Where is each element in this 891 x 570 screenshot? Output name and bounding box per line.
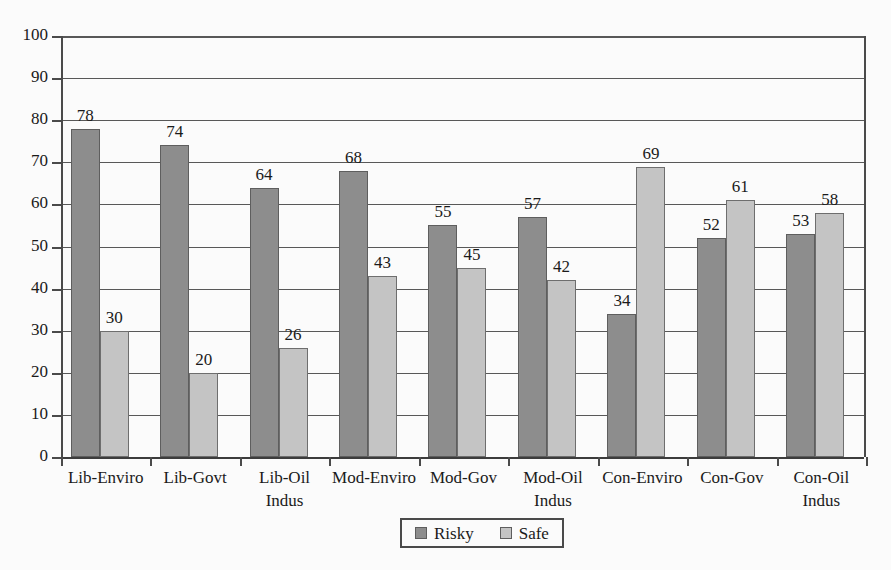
bar-value-label: 64 — [256, 165, 273, 185]
bar-safe: 42 — [547, 280, 576, 457]
y-tick-mark — [52, 373, 61, 375]
chart-legend: RiskySafe — [400, 518, 564, 548]
bar-chart: 0102030405060708090100 78307420642668435… — [0, 0, 891, 570]
bar-value-label: 74 — [166, 122, 183, 142]
y-tick-label: 100 — [23, 24, 49, 46]
bar-value-label: 78 — [77, 106, 94, 126]
y-tick-label: 40 — [31, 277, 48, 299]
bar-group: 7420 — [150, 36, 239, 457]
bar-safe: 20 — [189, 373, 218, 457]
legend-label: Safe — [519, 524, 549, 543]
bar-safe: 58 — [815, 213, 844, 457]
x-axis-label-line: Lib-Oil — [240, 466, 329, 489]
x-axis-label: Con-Enviro — [598, 466, 687, 489]
bar-risky: 55 — [428, 225, 457, 457]
x-axis-tick — [150, 457, 152, 466]
bar-risky: 64 — [250, 188, 279, 457]
bar-value-label: 30 — [106, 308, 123, 328]
y-axis: 0102030405060708090100 — [0, 36, 61, 457]
bar-risky: 78 — [71, 129, 100, 457]
bar-value-label: 57 — [524, 194, 541, 214]
y-tick-label: 90 — [31, 66, 48, 88]
x-axis-tick — [777, 457, 779, 466]
x-axis-label-line: Mod-Enviro — [329, 466, 418, 489]
x-axis-label-line: Con-Enviro — [598, 466, 687, 489]
y-tick-mark — [52, 78, 61, 80]
bar-group: 5358 — [777, 36, 866, 457]
bar-safe: 69 — [636, 167, 665, 457]
y-tick-mark — [52, 415, 61, 417]
x-axis-label: Mod-OilIndus — [508, 466, 597, 512]
bar-value-label: 52 — [703, 215, 720, 235]
x-axis-label-line: Indus — [508, 489, 597, 512]
x-axis-label-line: Indus — [240, 489, 329, 512]
x-axis-tick — [240, 457, 242, 466]
x-axis-tick — [508, 457, 510, 466]
x-axis-tick — [419, 457, 421, 466]
x-axis-tick — [598, 457, 600, 466]
x-axis-label: Mod-Enviro — [329, 466, 418, 489]
bar-value-label: 43 — [374, 253, 391, 273]
y-tick-mark — [52, 247, 61, 249]
y-tick-label: 30 — [31, 319, 48, 341]
bar-safe: 45 — [457, 268, 486, 457]
y-tick-label: 80 — [31, 108, 48, 130]
y-tick-label: 20 — [31, 361, 48, 383]
legend-item-risky: Risky — [415, 524, 474, 543]
bar-value-label: 42 — [553, 257, 570, 277]
x-axis-label: Lib-Enviro — [61, 466, 150, 489]
x-axis-tick — [329, 457, 331, 466]
bar-value-label: 20 — [195, 350, 212, 370]
bar-value-label: 55 — [434, 202, 451, 222]
bar-value-label: 53 — [792, 211, 809, 231]
y-tick-label: 0 — [40, 445, 49, 467]
y-tick-mark — [52, 36, 61, 38]
bar-safe: 43 — [368, 276, 397, 457]
bar-group: 7830 — [61, 36, 150, 457]
x-axis-label-line: Mod-Gov — [419, 466, 508, 489]
bar-group: 5261 — [687, 36, 776, 457]
bar-group: 6843 — [329, 36, 418, 457]
bar-value-label: 45 — [463, 245, 480, 265]
x-axis-label-line: Lib-Enviro — [61, 466, 150, 489]
bar-value-label: 69 — [642, 144, 659, 164]
x-axis-label: Lib-OilIndus — [240, 466, 329, 512]
bar-risky: 74 — [160, 145, 189, 457]
risky-swatch-icon — [415, 527, 427, 539]
x-axis-label: Con-Gov — [687, 466, 776, 489]
x-axis-tick — [61, 457, 63, 466]
bar-risky: 52 — [697, 238, 726, 457]
x-axis-label-line: Con-Oil — [777, 466, 866, 489]
bar-safe: 26 — [279, 348, 308, 457]
x-axis-tick — [687, 457, 689, 466]
x-axis-label-line: Lib-Govt — [150, 466, 239, 489]
bar-group: 3469 — [598, 36, 687, 457]
bar-value-label: 26 — [285, 325, 302, 345]
x-axis-label-line: Con-Gov — [687, 466, 776, 489]
x-axis-label-line: Indus — [777, 489, 866, 512]
bar-safe: 61 — [726, 200, 755, 457]
y-tick-label: 50 — [31, 235, 48, 257]
x-axis-label: Con-OilIndus — [777, 466, 866, 512]
bar-risky: 68 — [339, 171, 368, 457]
y-tick-mark — [52, 120, 61, 122]
y-tick-mark — [52, 162, 61, 164]
safe-swatch-icon — [500, 527, 512, 539]
bars-layer: 783074206426684355455742346952615358 — [61, 36, 866, 457]
y-tick-mark — [52, 457, 61, 459]
bar-safe: 30 — [100, 331, 129, 457]
legend-label: Risky — [434, 524, 474, 543]
y-tick-mark — [52, 331, 61, 333]
bar-value-label: 61 — [732, 177, 749, 197]
bar-group: 6426 — [240, 36, 329, 457]
x-axis-label-line: Mod-Oil — [508, 466, 597, 489]
bar-group: 5742 — [508, 36, 597, 457]
x-axis-label: Mod-Gov — [419, 466, 508, 489]
bar-value-label: 34 — [613, 291, 630, 311]
y-tick-label: 70 — [31, 150, 48, 172]
legend-item-safe: Safe — [500, 524, 549, 543]
bar-value-label: 58 — [821, 190, 838, 210]
bar-value-label: 68 — [345, 148, 362, 168]
x-axis: Lib-EnviroLib-GovtLib-OilIndusMod-Enviro… — [61, 457, 866, 517]
y-tick-label: 60 — [31, 192, 48, 214]
